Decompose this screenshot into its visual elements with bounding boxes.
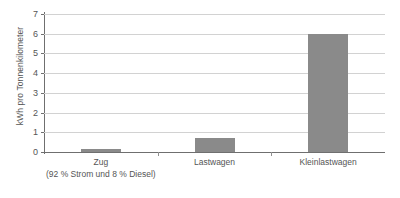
y-tick-label: 3: [33, 88, 38, 97]
gridline: [44, 152, 385, 153]
x-category-sublabel-text: (92 % Strom und 8 % Diesel): [44, 168, 158, 181]
bars-layer: [44, 14, 385, 152]
bar: [195, 138, 235, 152]
y-tick-label: 7: [33, 10, 38, 19]
y-tick-label: 4: [33, 69, 38, 78]
x-category-label-text: Lastwagen: [194, 157, 235, 167]
bar: [81, 149, 121, 152]
x-category-label: Zug(92 % Strom und 8 % Diesel): [44, 156, 158, 181]
plot-area: [44, 14, 385, 152]
y-tick-label: 2: [33, 108, 38, 117]
y-tick-label: 1: [33, 128, 38, 137]
y-tick-label: 5: [33, 49, 38, 58]
bar-chart: kWh pro Tonnenkilometer 01234567 Zug(92 …: [0, 0, 400, 198]
y-tick-label: 6: [33, 29, 38, 38]
y-tick-label: 0: [33, 148, 38, 157]
x-category-label-text: Kleinlastwagen: [300, 157, 357, 167]
x-category-label: Lastwagen: [158, 156, 272, 168]
y-axis-tick-labels: 01234567: [24, 14, 38, 152]
x-axis-category-labels: Zug(92 % Strom und 8 % Diesel)LastwagenK…: [44, 156, 385, 196]
bar: [308, 34, 348, 152]
x-category-label: Kleinlastwagen: [271, 156, 385, 168]
x-category-label-text: Zug: [94, 157, 109, 167]
y-tick-mark: [41, 152, 44, 153]
